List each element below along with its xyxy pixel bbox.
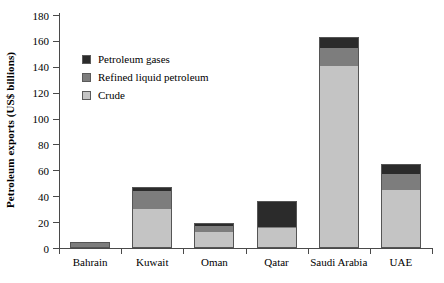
bar-uae	[381, 164, 421, 248]
y-axis-tick-label: 120	[33, 87, 50, 99]
y-axis-tick: 140	[53, 67, 59, 68]
x-axis-tick	[121, 249, 122, 254]
bar-qatar	[257, 201, 297, 248]
y-axis-tick: 100	[53, 119, 59, 120]
y-axis-tick: 20	[53, 222, 59, 223]
chart-figure: Petroleum exports (US$ billions) 0204060…	[0, 0, 444, 283]
y-axis-title: Petroleum exports (US$ billions)	[4, 52, 16, 208]
y-axis-tick: 120	[53, 93, 59, 94]
x-axis-tick	[246, 249, 247, 254]
chart-legend: Petroleum gasesRefined liquid petroleumC…	[82, 51, 209, 105]
bar-segment-crude	[195, 232, 233, 247]
bar-saudi-arabia	[319, 37, 359, 248]
y-axis-tick-label: 160	[33, 35, 50, 47]
bar-kuwait	[132, 187, 172, 248]
legend-item-label: Petroleum gases	[98, 53, 170, 65]
y-axis-tick-label: 40	[38, 191, 49, 203]
bar-bahrain	[70, 242, 110, 248]
bar-segment-refined-liquid-petroleum	[382, 174, 420, 190]
x-axis-tick	[432, 249, 433, 254]
bar-segment-refined-liquid-petroleum	[71, 243, 109, 247]
y-axis-title-container: Petroleum exports (US$ billions)	[0, 0, 20, 260]
legend-item: Crude	[82, 87, 209, 103]
bar-segment-petroleum-gases	[382, 165, 420, 174]
y-axis-tick: 160	[53, 41, 59, 42]
y-axis-tick-label: 140	[33, 61, 50, 73]
bar-segment-petroleum-gases	[258, 202, 296, 227]
bar-segment-crude	[258, 228, 296, 247]
x-axis-label-bahrain: Bahrain	[73, 256, 108, 268]
y-axis-tick-label: 80	[38, 139, 49, 151]
bar-segment-crude	[133, 209, 171, 247]
y-axis-tick: 80	[53, 144, 59, 145]
y-axis-line	[59, 13, 60, 249]
bar-segment-crude	[382, 190, 420, 247]
bar-segment-petroleum-gases	[320, 38, 358, 48]
y-axis-tick-label: 60	[38, 165, 49, 177]
bar-segment-refined-liquid-petroleum	[320, 48, 358, 66]
legend-item: Petroleum gases	[82, 51, 209, 67]
x-axis-label-oman: Oman	[201, 256, 228, 268]
legend-swatch-icon	[82, 91, 91, 100]
legend-item: Refined liquid petroleum	[82, 69, 209, 85]
x-axis-label-saudi-arabia: Saudi Arabia	[310, 256, 367, 268]
y-axis-tick: 180	[53, 15, 59, 16]
x-axis-tick	[183, 249, 184, 254]
x-axis-label-kuwait: Kuwait	[136, 256, 168, 268]
legend-item-label: Refined liquid petroleum	[98, 71, 209, 83]
y-axis-tick-label: 180	[33, 10, 50, 22]
x-axis-tick	[59, 249, 60, 254]
y-axis-tick-label: 0	[44, 243, 50, 255]
y-axis-tick: 40	[53, 196, 59, 197]
x-axis-tick	[370, 249, 371, 254]
y-axis-tick-label: 20	[38, 217, 49, 229]
x-axis-label-qatar: Qatar	[264, 256, 288, 268]
legend-item-label: Crude	[98, 89, 125, 101]
bar-oman	[194, 223, 234, 248]
x-axis-tick	[308, 249, 309, 254]
bar-segment-refined-liquid-petroleum	[133, 191, 171, 210]
legend-swatch-icon	[82, 55, 91, 64]
y-axis-tick: 60	[53, 170, 59, 171]
bar-segment-crude	[320, 66, 358, 247]
y-axis-tick-label: 100	[33, 113, 50, 125]
x-axis-label-uae: UAE	[390, 256, 413, 268]
legend-swatch-icon	[82, 73, 91, 82]
